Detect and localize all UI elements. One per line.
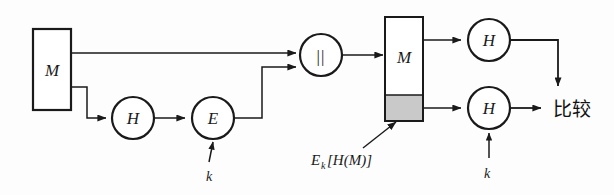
wire-message-to-hash-sender-path [71,87,106,118]
concat-label: || [317,47,326,66]
key-sender-label: k [206,169,213,184]
concat-node: || [300,34,342,76]
tag-annotation-label: E k [H(M)] [310,152,372,171]
source-message-box-label: M [44,61,60,80]
wire-message-to-hash-sender [71,87,106,118]
encrypt-label: E [207,109,219,128]
tag-annotation-base: E [310,152,320,168]
hash-sender-node: H [112,97,154,139]
diagram-canvas: M H E k [0,0,614,195]
key-receiver-label: k [484,166,491,181]
hash-bottom-receiver-label: H [482,99,497,118]
key-receiver-arrow: k [484,133,491,181]
tag-annotation-arrow [363,122,396,148]
encrypted-hash-tag-fill [386,95,422,120]
key-sender-arrow: k [206,142,213,184]
mac-hash-diagram: M H E k [0,0,614,195]
tag-annotation-rest: [H(M)] [327,152,372,169]
wire-encrypt-to-concat-path [234,67,296,118]
key-sender-arrow-path [209,142,213,162]
compare-label: 比较 [553,98,591,120]
wire-hash-top-to-compare-path [510,40,558,86]
received-message-box: M [385,17,423,121]
tag-annotation-arrow-path [363,122,396,148]
wire-hash-top-to-compare [510,40,558,86]
tag-annotation-sub: k [321,160,326,171]
hash-bottom-receiver-node: H [468,87,510,129]
hash-top-receiver-label: H [482,31,497,50]
hash-top-receiver-node: H [468,19,510,61]
received-message-box-label: M [396,48,412,67]
wire-encrypt-to-concat [234,67,296,118]
compare-label-group: 比较 [553,98,591,120]
hash-sender-label: H [126,109,141,128]
encrypt-node: E [192,97,234,139]
source-message-box: M [33,29,71,110]
